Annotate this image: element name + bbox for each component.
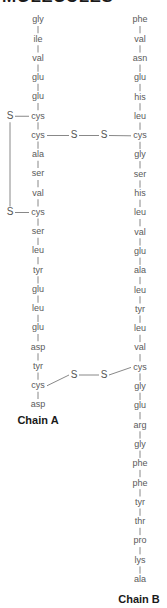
residue-his: his <box>134 92 146 102</box>
residue-cys: cys <box>31 207 45 217</box>
residue-glu: glu <box>134 72 146 82</box>
residue-leu: leu <box>32 303 44 313</box>
residue-ala: ala <box>32 149 44 159</box>
residue-glu: glu <box>32 284 44 294</box>
residue-ile: ile <box>33 34 42 44</box>
residue-asp: asp <box>31 342 46 352</box>
sulfur-atom: S <box>101 129 108 140</box>
residue-ala: ala <box>134 574 146 584</box>
residue-pro: pro <box>133 535 146 545</box>
residue-cys: cys <box>133 130 147 140</box>
residue-cys: cys <box>31 111 45 121</box>
residue-glu: glu <box>134 400 146 410</box>
residue-phe: phe <box>132 14 147 24</box>
residue-leu: leu <box>134 323 146 333</box>
chain-a-label: Chain A <box>17 414 58 426</box>
sulfur-atom: S <box>7 110 14 121</box>
sulfur-atom: S <box>71 369 78 380</box>
residue-glu: glu <box>32 91 44 101</box>
sulfur-atom: S <box>71 129 78 140</box>
chain-b-label: Chain B <box>118 593 160 605</box>
residue-ala: ala <box>134 265 146 275</box>
residue-cys: cys <box>31 380 45 390</box>
sulfur-atom: S <box>7 206 14 217</box>
residue-phe: phe <box>132 478 147 488</box>
residue-ser: ser <box>134 169 147 179</box>
residue-gly: gly <box>134 381 146 391</box>
residue-ser: ser <box>32 168 45 178</box>
residue-ser: ser <box>32 226 45 236</box>
residue-val: val <box>134 34 146 44</box>
residue-leu: leu <box>32 245 44 255</box>
insulin-structure-diagram: MOLECULES glyilevalgluglucyscysalaserval… <box>0 0 167 608</box>
residue-val: val <box>134 342 146 352</box>
residue-tyr: tyr <box>33 265 43 275</box>
residue-gly: gly <box>134 149 146 159</box>
residue-gly: gly <box>32 14 44 24</box>
residue-val: val <box>32 53 44 63</box>
chain-diagram: glyilevalgluglucyscysalaservalcysserleut… <box>0 0 167 608</box>
residue-asn: asn <box>133 53 148 63</box>
residue-leu: leu <box>134 207 146 217</box>
residue-glu: glu <box>32 72 44 82</box>
residue-lys: lys <box>135 555 146 565</box>
residue-arg: arg <box>133 420 146 430</box>
residue-val: val <box>134 227 146 237</box>
residue-leu: leu <box>134 285 146 295</box>
residue-val: val <box>32 188 44 198</box>
residue-phe: phe <box>132 458 147 468</box>
residue-thr: thr <box>135 516 146 526</box>
residue-leu: leu <box>134 111 146 121</box>
residue-his: his <box>134 188 146 198</box>
disulfide-bond-line <box>109 367 131 375</box>
residue-gly: gly <box>134 439 146 449</box>
residue-tyr: tyr <box>33 361 43 371</box>
residue-cys: cys <box>31 130 45 140</box>
residue-tyr: tyr <box>135 304 145 314</box>
page-title: MOLECULES <box>2 0 113 7</box>
residue-asp: asp <box>31 399 46 409</box>
residue-cys: cys <box>133 362 147 372</box>
disulfide-bond-line <box>47 375 69 386</box>
residue-glu: glu <box>32 322 44 332</box>
residue-tyr: tyr <box>135 497 145 507</box>
sulfur-atom: S <box>101 369 108 380</box>
residue-glu: glu <box>134 246 146 256</box>
